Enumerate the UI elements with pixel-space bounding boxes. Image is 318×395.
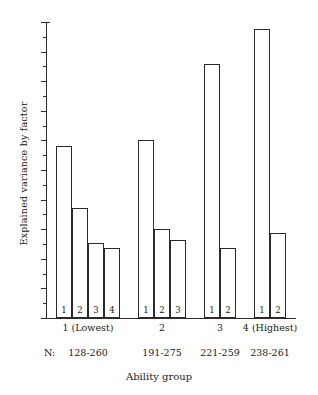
bar-index-label: 2: [73, 305, 87, 315]
x-group-label: 4 (Highest): [243, 322, 297, 333]
y-tick-minor: [43, 37, 47, 38]
x-group-label: 1 (Lowest): [63, 322, 114, 333]
y-tick-minor: [43, 126, 47, 127]
x-axis-line: [46, 318, 296, 319]
y-tick-minor: [43, 303, 47, 304]
y-axis-title: Explained variance by factor: [18, 79, 29, 269]
y-tick-major: [41, 22, 47, 23]
y-tick-minor: [43, 155, 47, 156]
bar-chart-figure: Explained variance by factor 04812162024…: [0, 0, 318, 395]
y-tick-minor: [43, 244, 47, 245]
bar: 2: [270, 233, 286, 318]
y-tick-major: [41, 259, 47, 260]
y-tick-major: [41, 229, 47, 230]
y-tick-major: [41, 170, 47, 171]
bar: 1: [138, 140, 154, 318]
n-caption-label: N:: [44, 347, 55, 358]
sample-size-value: 191-275: [142, 347, 181, 358]
bar-index-label: 1: [57, 305, 71, 315]
y-tick-major: [41, 288, 47, 289]
y-tick-major: [41, 318, 47, 319]
x-axis-title: Ability group: [0, 371, 318, 382]
bar-index-label: 2: [221, 305, 235, 315]
sample-size-value: 128-260: [68, 347, 107, 358]
bar-index-label: 2: [155, 305, 169, 315]
bar-index-label: 3: [89, 305, 103, 315]
y-tick-minor: [43, 96, 47, 97]
y-tick-major: [41, 200, 47, 201]
bar-index-label: 1: [205, 305, 219, 315]
y-tick-major: [41, 52, 47, 53]
bar-index-label: 4: [105, 305, 119, 315]
plot-area: 0481216202428323640% 12341231212: [46, 22, 304, 318]
bar: 1: [204, 64, 220, 318]
y-tick-major: [41, 140, 47, 141]
bar: 2: [154, 229, 170, 318]
x-group-label: 3: [217, 322, 223, 333]
bar: 3: [88, 243, 104, 318]
y-tick-major: [41, 111, 47, 112]
y-tick-minor: [43, 185, 47, 186]
bar-index-label: 1: [139, 305, 153, 315]
y-tick-major: [41, 81, 47, 82]
bar: 1: [56, 146, 72, 318]
bar-index-label: 1: [255, 305, 269, 315]
bar-index-label: 3: [171, 305, 185, 315]
bar: 4: [104, 248, 120, 318]
bar: 2: [72, 208, 88, 318]
sample-size-value: 238-261: [250, 347, 289, 358]
y-tick-minor: [43, 66, 47, 67]
bar-index-label: 2: [271, 305, 285, 315]
bar: 1: [254, 29, 270, 318]
bar: 2: [220, 248, 236, 318]
x-group-label: 2: [159, 322, 165, 333]
bar: 3: [170, 240, 186, 318]
sample-size-value: 221-259: [200, 347, 239, 358]
y-tick-minor: [43, 214, 47, 215]
y-tick-minor: [43, 274, 47, 275]
